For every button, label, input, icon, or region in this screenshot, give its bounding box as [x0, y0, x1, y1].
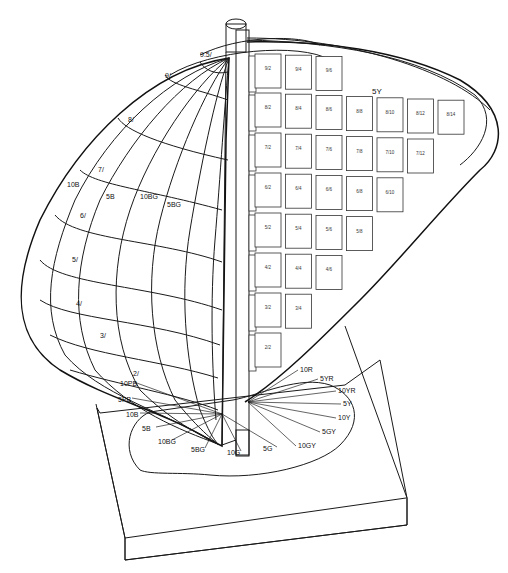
base-hue-label: 5BG [191, 446, 205, 453]
chip-label: 5/4 [295, 226, 302, 231]
color-chip [255, 213, 281, 247]
value-label: 5/ [72, 256, 78, 263]
value-label: 8/ [128, 116, 134, 123]
chip-label: 8/8 [356, 109, 363, 114]
meridian-hue-label: 5BG [167, 201, 181, 208]
chip-grid: 9/29/49/68/28/48/68/88/108/128/147/27/47… [249, 54, 464, 371]
hue-spoke [248, 379, 318, 402]
chip-label: 3/2 [265, 305, 272, 310]
chip-label: 9/4 [295, 67, 302, 72]
base-hue-label: 10PB [120, 380, 137, 387]
chip-label: 8/10 [386, 110, 395, 115]
chip-label: 7/2 [265, 145, 272, 150]
chip-label: 9/2 [265, 66, 272, 71]
value-label: 9/ [165, 72, 171, 79]
value-label: 7/ [98, 166, 104, 173]
value-label: 4/ [76, 300, 82, 307]
color-chip [255, 93, 281, 127]
value-label: 3/ [100, 332, 106, 339]
hue-spoke [205, 414, 222, 448]
color-chip [255, 173, 281, 207]
base-hue-label: 5PB [118, 396, 132, 403]
chip-label: 6/2 [265, 185, 272, 190]
base-hue-label: 10G [227, 449, 240, 456]
chip-label: 6/10 [386, 190, 395, 195]
color-chip [255, 133, 281, 167]
chip-label: 6/4 [295, 186, 302, 191]
chip-label: 9/6 [326, 68, 333, 73]
color-chip [255, 253, 281, 287]
base-hue-label: 5Y [343, 400, 352, 407]
chip-label: 8/6 [326, 107, 333, 112]
base-hue-label: 10B [126, 411, 139, 418]
value-label: 9.5/ [200, 51, 212, 58]
base-hue-label: 5GY [322, 428, 336, 435]
color-chip [255, 293, 281, 327]
hue-spoke [248, 402, 336, 418]
munsell-solid-diagram: 9/29/49/68/28/48/68/88/108/128/147/27/47… [0, 0, 508, 573]
chip-label: 7/8 [356, 149, 363, 154]
chip-label: 8/12 [416, 111, 425, 116]
color-chip [255, 54, 281, 88]
base-hue-label: 5B [142, 425, 151, 432]
hue-spoke [248, 370, 298, 402]
chip-label: 5/2 [265, 225, 272, 230]
chip-label: 6/6 [326, 187, 333, 192]
color-solid-left-globe [21, 58, 229, 446]
chip-label: 5/8 [356, 229, 363, 234]
chip-label: 8/2 [265, 105, 272, 110]
color-chip [255, 333, 281, 367]
hue-circle [129, 370, 354, 476]
meridian-hue-label: 5B [106, 193, 115, 200]
chip-label: 4/6 [326, 267, 333, 272]
base-hue-label: 10YR [338, 387, 356, 394]
hue-spoke [248, 402, 341, 404]
page-hue-label: 5Y [372, 87, 382, 96]
chip-label: 5/6 [326, 227, 333, 232]
chip-label: 4/4 [295, 266, 302, 271]
chip-label: 7/6 [326, 147, 333, 152]
chip-label: 6/8 [356, 189, 363, 194]
chip-label: 7/12 [416, 151, 425, 156]
hue-spoke [248, 402, 320, 432]
chip-label: 3/4 [295, 306, 302, 311]
value-label: 2/ [133, 370, 139, 377]
value-label: 6/ [80, 212, 86, 219]
color-chip [408, 139, 434, 173]
meridian-hue-label: 10B [67, 181, 80, 188]
base-hue-label: 10GY [298, 442, 316, 449]
chip-label: 7/4 [295, 146, 302, 151]
chip-label: 8/4 [295, 106, 302, 111]
base-hue-label: 10Y [338, 414, 351, 421]
chip-label: 2/2 [265, 345, 272, 350]
chip-label: 8/14 [447, 112, 456, 117]
chip-label: 4/2 [265, 265, 272, 270]
base-hue-label: 10BG [158, 438, 176, 445]
value-labels: 9.5/9/8/7/6/5/4/3/2/ [72, 51, 212, 377]
meridian-hue-label: 10BG [140, 193, 158, 200]
chip-label: 7/10 [386, 150, 395, 155]
neutral-axis [222, 19, 249, 456]
hue-spoke [248, 402, 296, 446]
color-chip [408, 99, 434, 133]
base-hue-label: 5G [263, 445, 272, 452]
base-hue-label: 10R [300, 366, 313, 373]
base-hue-label: 5YR [320, 375, 334, 382]
hue-spoke [140, 413, 222, 414]
